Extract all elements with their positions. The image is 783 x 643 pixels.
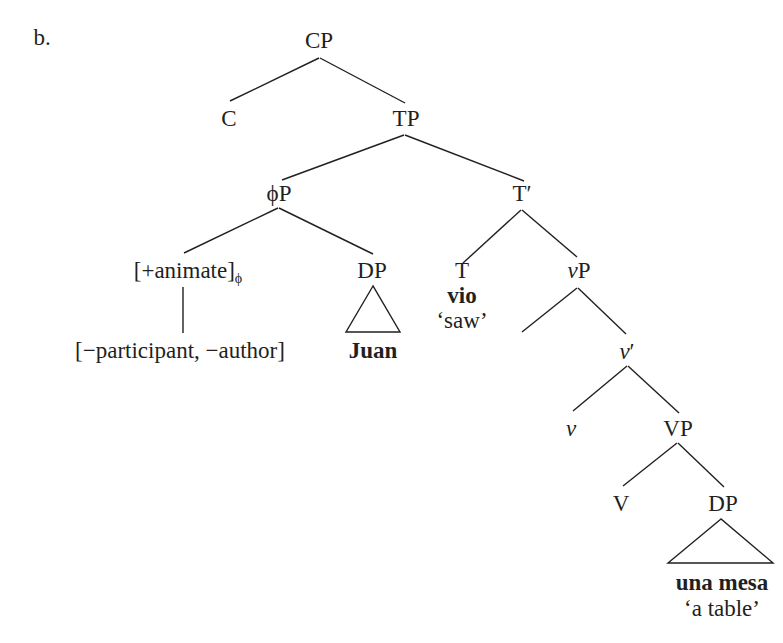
word-juan: Juan [349,339,398,362]
node-features: [−participant, −author] [75,339,285,362]
node-dp-subject: DP [357,259,386,282]
edge-tbar-t [463,210,521,263]
edge-cp-c [230,58,319,101]
node-phip: ϕP [267,182,292,205]
edge-phip-dp [279,208,373,254]
example-label: b. [33,26,50,49]
edge-tp-tbar [405,135,524,181]
edge-tbar-vp [522,210,577,257]
vbar-prime: ′ [630,339,635,364]
node-tp: TP [393,107,420,130]
edge-VP-V [623,443,677,486]
gloss-saw: ‘saw’ [436,309,487,332]
little-v-italic: v [567,258,577,283]
word-una-mesa: una mesa [676,571,769,594]
node-t: T [455,259,469,282]
edge-VP-DP [678,443,724,487]
node-V: V [613,492,630,515]
node-animate: [+animate]ϕ [134,259,242,282]
edge-vp-vbar [578,288,626,334]
triangle-dp-juan [346,286,400,332]
node-c: C [221,107,236,130]
tree-edges [0,0,783,643]
animate-feature: [+animate] [134,258,235,283]
node-tbar: T′ [512,182,531,205]
node-VP: VP [663,417,692,440]
edge-phip-animate [184,208,278,253]
vbar-v-italic: v [619,339,629,364]
node-dp-object: DP [708,492,737,515]
edge-tp-phip [282,135,404,180]
gloss-a-table: ‘a table’ [684,597,760,620]
triangle-dp-una-mesa [668,519,773,563]
node-little-v: v [566,417,576,440]
edge-vbar-VP [628,366,679,413]
edge-vbar-v [573,366,627,411]
node-little-vp: vP [567,259,590,282]
phrase-p: P [578,258,591,283]
node-vbar: v′ [619,340,634,363]
edge-vp-spec [522,288,577,332]
phi-subscript: ϕ [235,271,242,286]
word-vio: vio [447,284,476,307]
node-cp: CP [305,29,333,52]
edge-cp-tp [320,58,405,103]
